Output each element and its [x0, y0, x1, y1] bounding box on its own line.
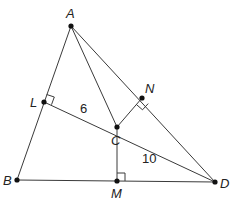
label-C: C — [111, 133, 121, 148]
right-angle-marks — [47, 95, 149, 182]
right-angle-mark-L — [47, 95, 55, 105]
label-D: D — [220, 176, 229, 191]
segment-AC — [71, 26, 117, 127]
point-B — [14, 177, 19, 182]
measurement-LC: 6 — [80, 101, 87, 116]
geometry-diagram: A L C N B M D 6 10 — [0, 0, 234, 200]
segments — [17, 26, 215, 182]
points — [14, 23, 217, 184]
point-M — [114, 178, 119, 183]
label-L: L — [30, 95, 37, 110]
label-B: B — [3, 173, 12, 188]
point-N — [139, 95, 144, 100]
point-labels: A L C N B M D — [3, 6, 229, 200]
point-A — [68, 23, 73, 28]
segment-CN — [117, 98, 142, 127]
measurement-CD: 10 — [142, 151, 156, 166]
point-D — [212, 179, 217, 184]
right-angle-mark-N — [136, 104, 148, 110]
point-L — [41, 99, 46, 104]
label-N: N — [145, 81, 155, 96]
segment-LD — [44, 102, 215, 182]
point-C — [114, 124, 119, 129]
label-M: M — [111, 186, 122, 200]
label-A: A — [65, 6, 75, 21]
